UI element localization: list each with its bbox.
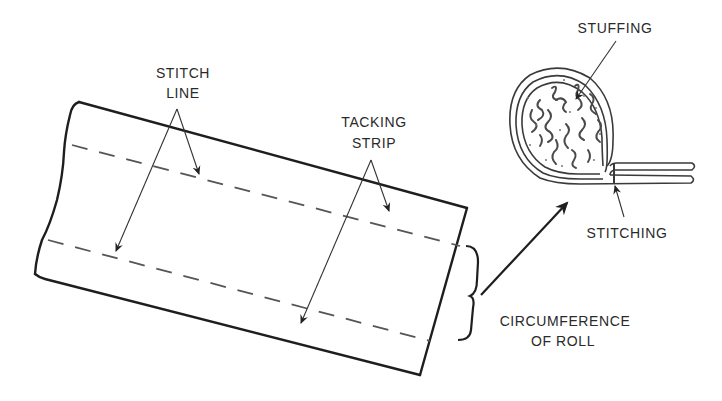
lower-stitch-line — [48, 240, 430, 341]
roll-inner-liner — [522, 82, 603, 174]
roll-cross-section — [510, 68, 695, 184]
stuffing-fibers — [530, 85, 601, 168]
circumference-label-1: CIRCUMFERENCE — [500, 313, 631, 329]
stitch-line-arrow-upper — [177, 109, 199, 174]
strip-top-edge — [79, 102, 467, 208]
roll-diagram: STITCH LINE TACKING STRIP CIRCUMFERENCE … — [0, 0, 722, 401]
strip-left-edge — [35, 102, 79, 274]
circumference-arrow — [481, 203, 567, 295]
stitching-label: STITCHING — [587, 225, 668, 241]
stitch-line-arrow-lower — [116, 109, 177, 251]
stuffing-label: STUFFING — [578, 20, 653, 36]
upper-stitch-line — [72, 145, 460, 246]
tacking-strip-arrow-lower — [301, 160, 371, 323]
strip-bottom-edge — [35, 274, 420, 375]
stitch-line-label-1: STITCH — [156, 65, 210, 81]
tacking-strip-label-2: STRIP — [352, 135, 396, 151]
roll-inner-wrap — [516, 76, 607, 179]
stitch-line-label-2: LINE — [166, 85, 200, 101]
stitch-lines — [48, 145, 460, 341]
stitch-line-callout: STITCH LINE — [116, 65, 210, 251]
stitching-arrow — [615, 186, 624, 217]
tacking-strip-label-1: TACKING — [341, 114, 406, 130]
strip-right-edge — [420, 208, 467, 375]
roll-tail-upper — [610, 163, 695, 175]
circumference-brace — [458, 246, 478, 340]
stuffing-arrow — [576, 41, 616, 99]
circumference-label-2: OF ROLL — [531, 333, 595, 349]
